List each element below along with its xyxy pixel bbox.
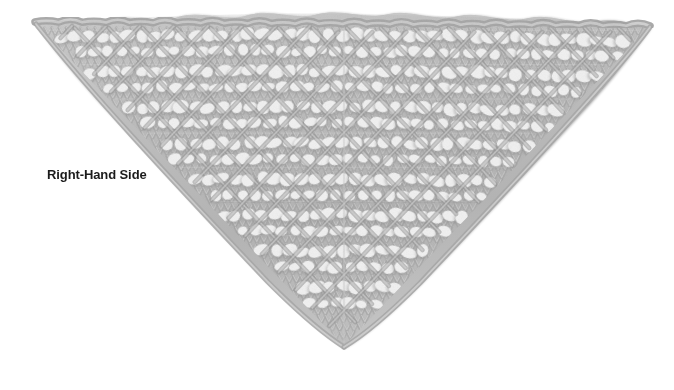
knitted-lace-shawl-image [0, 0, 674, 390]
photo-grain-overlay [0, 0, 674, 390]
right-hand-side-caption: Right-Hand Side [47, 167, 147, 183]
figure-canvas: Right-Hand Side [0, 0, 674, 390]
